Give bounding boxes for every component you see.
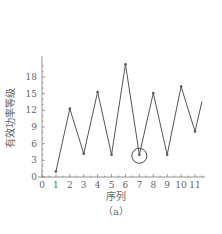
y-axis-title: 有效功率等级 — [4, 88, 16, 148]
y-tick-label: 12 — [26, 105, 37, 115]
x-tick-label: 8 — [150, 180, 156, 190]
y-tick-label: 9 — [31, 122, 37, 132]
x-axis-title: 序列 — [106, 190, 126, 202]
x-tick-label: 3 — [81, 180, 87, 190]
y-tick-label: 0 — [31, 172, 37, 182]
data-point — [55, 170, 58, 173]
x-tick-label: 10 — [175, 180, 187, 190]
series-line — [56, 64, 202, 171]
x-tick-label: 4 — [95, 180, 101, 190]
data-point — [180, 85, 183, 88]
x-tick-label: 11 — [189, 180, 200, 190]
data-series — [55, 63, 202, 173]
figure-caption: （a） — [103, 206, 129, 217]
x-tick-label: 9 — [164, 180, 170, 190]
data-point — [124, 63, 127, 66]
line-chart: 0369121518 01234567891011 序列 有效功率等级 （a） — [0, 0, 222, 234]
data-point — [69, 107, 72, 110]
data-point — [82, 152, 85, 155]
x-tick-label: 7 — [136, 180, 142, 190]
data-point — [138, 153, 141, 156]
x-tick-label: 1 — [53, 180, 59, 190]
x-tick-label: 0 — [39, 180, 45, 190]
data-point — [152, 92, 155, 95]
data-point — [110, 153, 113, 156]
data-point — [194, 130, 197, 133]
data-point — [166, 153, 169, 156]
y-tick-label: 18 — [26, 72, 38, 82]
y-tick-label: 15 — [26, 89, 38, 99]
y-axis: 0369121518 — [26, 56, 45, 182]
x-axis: 01234567891011 — [38, 174, 205, 190]
x-tick-label: 5 — [109, 180, 115, 190]
y-tick-label: 3 — [31, 155, 37, 165]
x-tick-label: 6 — [123, 180, 129, 190]
data-point — [96, 91, 99, 94]
x-tick-label: 2 — [67, 180, 73, 190]
y-tick-label: 6 — [31, 139, 37, 149]
